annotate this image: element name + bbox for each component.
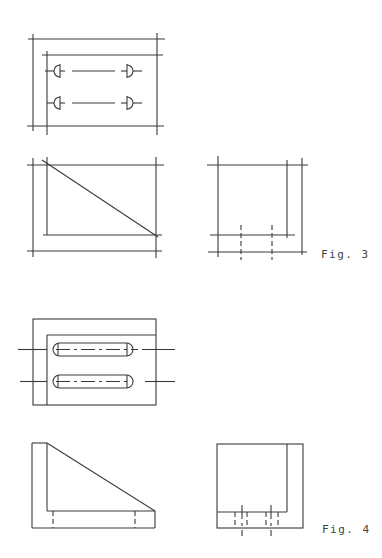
slot-2 xyxy=(20,375,175,388)
figure-4-label: Fig. 4 xyxy=(322,524,371,536)
hole-symbol-row-1 xyxy=(45,64,142,78)
fig4-front-view xyxy=(32,443,155,528)
slot-1 xyxy=(18,343,175,356)
figure-3-label: Fig. 3 xyxy=(321,249,370,261)
fig3-front-view xyxy=(27,157,164,258)
technical-drawing xyxy=(0,0,382,558)
fig4-top-view xyxy=(18,319,175,405)
fig3-top-view xyxy=(27,33,165,135)
hole-symbol-row-2 xyxy=(47,96,142,110)
fig3-side-view xyxy=(207,156,308,260)
fig4-side-view xyxy=(217,444,303,536)
